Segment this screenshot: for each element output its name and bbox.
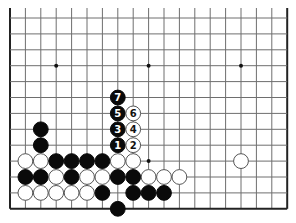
- star-point-icon: [239, 64, 243, 68]
- white-stone: [80, 170, 95, 185]
- white-stone-icon: [64, 186, 79, 201]
- black-stone: [49, 154, 64, 169]
- white-stone-icon: [49, 170, 64, 185]
- white-stone: [95, 170, 110, 185]
- white-stone-icon: [18, 154, 33, 169]
- star-point-icon: [147, 159, 151, 163]
- black-stone-icon: [64, 154, 79, 169]
- white-stone-icon: [33, 186, 48, 201]
- black-stone: [157, 186, 172, 201]
- black-stone: [141, 186, 156, 201]
- black-stone: [80, 154, 95, 169]
- black-stone-move-3: 3: [110, 122, 125, 137]
- star-point-icon: [54, 64, 58, 68]
- black-stone-move-7: 7: [110, 90, 125, 105]
- move-number-label: 4: [130, 124, 137, 135]
- go-board-diagram: 7563412: [0, 0, 296, 223]
- black-stone: [64, 170, 79, 185]
- black-stone-icon: [110, 170, 125, 185]
- white-stone: [172, 170, 187, 185]
- star-point-icon: [147, 64, 151, 68]
- white-stone: [49, 186, 64, 201]
- white-stone-icon: [110, 154, 125, 169]
- white-stone-icon: [141, 170, 156, 185]
- black-stone-icon: [95, 154, 110, 169]
- white-stone-icon: [95, 170, 110, 185]
- white-stone: [33, 154, 48, 169]
- black-stone-icon: [80, 154, 95, 169]
- black-stone-icon: [126, 186, 141, 201]
- white-stone-icon: [49, 186, 64, 201]
- white-stone: [18, 186, 33, 201]
- move-number-label: 5: [114, 108, 121, 119]
- white-stone: [49, 170, 64, 185]
- move-number-label: 7: [114, 92, 121, 103]
- black-stone-icon: [141, 186, 156, 201]
- black-stone-icon: [33, 170, 48, 185]
- white-stone-move-6: 6: [126, 106, 141, 121]
- black-stone-icon: [110, 201, 125, 216]
- black-stone: [33, 122, 48, 137]
- black-stone-icon: [33, 122, 48, 137]
- black-stone-move-5: 5: [110, 106, 125, 121]
- white-stone-icon: [172, 170, 187, 185]
- black-stone-icon: [49, 154, 64, 169]
- white-stone: [18, 154, 33, 169]
- black-stone: [126, 186, 141, 201]
- white-stone: [33, 186, 48, 201]
- white-stone: [64, 186, 79, 201]
- move-number-label: 1: [114, 140, 121, 151]
- white-stone-icon: [18, 186, 33, 201]
- white-stone-icon: [126, 154, 141, 169]
- black-stone: [126, 170, 141, 185]
- white-stone: [110, 154, 125, 169]
- white-stone-icon: [80, 186, 95, 201]
- white-stone-move-4: 4: [126, 122, 141, 137]
- white-stone: [141, 170, 156, 185]
- move-number-label: 3: [114, 124, 121, 135]
- move-number-label: 6: [130, 108, 137, 119]
- white-stone-icon: [33, 154, 48, 169]
- black-stone-icon: [64, 170, 79, 185]
- black-stone: [33, 170, 48, 185]
- black-stone: [110, 170, 125, 185]
- black-stone-icon: [18, 170, 33, 185]
- white-stone-icon: [80, 170, 95, 185]
- white-stone-icon: [157, 170, 172, 185]
- black-stone-icon: [157, 186, 172, 201]
- black-stone-icon: [95, 186, 110, 201]
- white-stone: [80, 186, 95, 201]
- white-stone: [157, 170, 172, 185]
- black-stone: [33, 138, 48, 153]
- white-stone-move-2: 2: [126, 138, 141, 153]
- black-stone: [110, 201, 125, 216]
- black-stone-icon: [126, 170, 141, 185]
- white-stone: [234, 154, 249, 169]
- black-stone-move-1: 1: [110, 138, 125, 153]
- white-stone-icon: [234, 154, 249, 169]
- black-stone: [95, 154, 110, 169]
- black-stone: [95, 186, 110, 201]
- black-stone-icon: [33, 138, 48, 153]
- black-stone: [64, 154, 79, 169]
- move-number-label: 2: [130, 140, 137, 151]
- black-stone: [18, 170, 33, 185]
- white-stone: [126, 154, 141, 169]
